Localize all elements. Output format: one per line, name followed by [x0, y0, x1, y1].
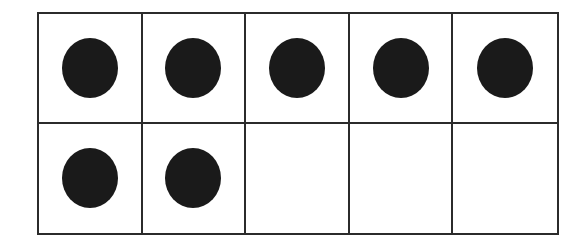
counter-dot-icon	[373, 38, 429, 98]
counter-dot-icon	[165, 148, 221, 208]
frame-cell-10	[453, 124, 557, 234]
frame-cell-4	[350, 14, 454, 124]
counter-dot-icon	[269, 38, 325, 98]
frame-cell-8	[246, 124, 350, 234]
frame-cell-1	[39, 14, 143, 124]
frame-cell-3	[246, 14, 350, 124]
ten-frame	[37, 12, 559, 235]
counter-dot-icon	[477, 38, 533, 98]
frame-cell-2	[143, 14, 247, 124]
counter-dot-icon	[165, 38, 221, 98]
frame-cell-5	[453, 14, 557, 124]
frame-cell-9	[350, 124, 454, 234]
counter-dot-icon	[62, 148, 118, 208]
frame-cell-6	[39, 124, 143, 234]
frame-cell-7	[143, 124, 247, 234]
counter-dot-icon	[62, 38, 118, 98]
